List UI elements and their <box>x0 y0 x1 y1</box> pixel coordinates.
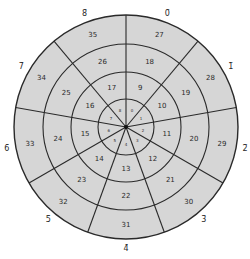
cell-label-inner: 2 <box>142 128 145 133</box>
sector-label: 6̄ <box>4 144 9 153</box>
cell-label: 10 <box>157 102 166 110</box>
cell-label: 12 <box>148 155 157 163</box>
sector-label: 2̄ <box>243 144 248 153</box>
sector-label: 0̄ <box>165 9 170 18</box>
cell-label: 11 <box>162 130 171 138</box>
cell-label: 25 <box>62 89 71 97</box>
center-dot <box>124 125 128 129</box>
cell-label: 31 <box>122 221 131 229</box>
cell-label: 18 <box>145 58 154 66</box>
cell-label: 16 <box>86 102 95 110</box>
cell-label: 24 <box>54 135 63 143</box>
cell-label-inner: 5 <box>114 138 117 143</box>
cell-label: 35 <box>88 31 97 39</box>
cell-label: 20 <box>189 135 198 143</box>
cell-label-inner: 8 <box>119 108 122 113</box>
cell-label: 13 <box>122 165 131 173</box>
cell-label: 30 <box>184 198 193 206</box>
cell-label: 28 <box>206 74 215 82</box>
cell-label: 32 <box>59 198 68 206</box>
polar-grid-diagram: 0918271101928211202931221304132231514233… <box>0 0 250 259</box>
sector-label: 7̄ <box>19 62 24 71</box>
cell-label: 22 <box>122 192 131 200</box>
cell-label: 9 <box>138 84 142 92</box>
sector-label: 3̄ <box>201 215 206 224</box>
cell-label: 27 <box>155 31 164 39</box>
cell-label: 23 <box>77 176 86 184</box>
cell-label: 34 <box>37 74 46 82</box>
diagram-canvas: 0918271101928211202931221304132231514233… <box>0 0 250 259</box>
sector-label: 8̄ <box>82 9 87 18</box>
cell-label: 26 <box>98 58 107 66</box>
sector-label: 5̄ <box>46 215 51 224</box>
cell-label: 19 <box>181 89 190 97</box>
cell-label: 21 <box>166 176 175 184</box>
cell-label: 15 <box>81 130 90 138</box>
cell-label-inner: 4 <box>125 142 128 147</box>
cell-label: 33 <box>26 140 35 148</box>
sector-label: 4̄ <box>123 244 128 253</box>
sector-label: 1̄ <box>228 62 233 71</box>
cell-label-inner: 3 <box>136 138 139 143</box>
cell-label: 29 <box>218 140 227 148</box>
cell-label-inner: 7 <box>110 116 113 121</box>
cell-label-inner: 0 <box>131 108 134 113</box>
cell-label: 17 <box>107 84 116 92</box>
cell-label: 14 <box>95 155 104 163</box>
